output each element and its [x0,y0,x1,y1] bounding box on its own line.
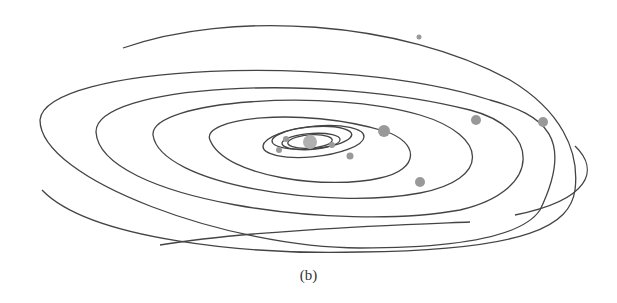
sun [303,135,317,149]
planet-mars [347,153,354,160]
planet-venus [283,136,289,142]
orbit-path [160,222,470,245]
planet-pluto [417,35,422,40]
planet-earth [329,142,335,148]
planet-mercury [276,147,282,153]
figure-caption: (b) [0,267,617,284]
planet-uranus [471,115,481,125]
planet-saturn [415,177,425,187]
solar-system-orbit-diagram [0,0,617,303]
orbit-path [42,190,360,252]
planet-jupiter [378,125,390,137]
orbit-path [96,88,523,217]
planet-neptune [538,117,548,127]
orbit-path [40,70,555,248]
planet-group [276,35,548,188]
